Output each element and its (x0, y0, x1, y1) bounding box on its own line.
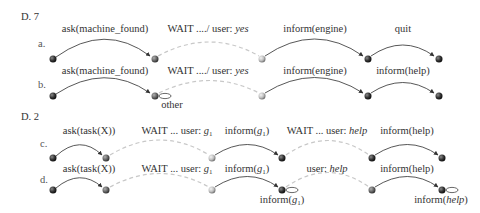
state-node (50, 56, 57, 63)
edge-label: WAIT ... user: help (287, 125, 367, 136)
state-node (365, 56, 372, 63)
edge-label: ask(machine_found) (62, 23, 149, 35)
edge-label: inform(help) (376, 65, 430, 77)
state-node (103, 155, 110, 162)
state-node (50, 155, 57, 162)
state-node (365, 93, 372, 100)
self-loop-label: other (161, 99, 183, 110)
edge-dashed (286, 173, 369, 188)
edge-solid (371, 83, 434, 94)
edge-label: inform(g1) (225, 125, 270, 138)
row-a: a. ask(machine_found) WAIT ..../ user: y… (38, 23, 443, 63)
edge-label: WAIT ..../ user: yes (167, 65, 248, 76)
edge-label: inform(engine) (283, 65, 347, 77)
self-loop (159, 93, 171, 98)
edge-solid (215, 177, 278, 188)
state-node (436, 93, 443, 100)
edge-solid (375, 145, 438, 156)
state-node (279, 155, 286, 162)
edge-label: inform(engine) (283, 23, 347, 35)
section-title-d2: D. 2 (21, 111, 39, 122)
state-node (50, 187, 57, 194)
edge-label: inform(help) (380, 125, 434, 137)
edge-label: inform(g1) (225, 163, 270, 176)
row-label-b: b. (38, 79, 46, 90)
row-d: d. ask(task(X)) WAIT ... user: g1 inform… (40, 163, 468, 207)
edge-solid (215, 145, 278, 156)
state-node (209, 155, 216, 162)
state-node (439, 155, 446, 162)
state-node (103, 187, 110, 194)
edge-label: quit (395, 23, 411, 34)
self-loop (286, 187, 298, 192)
state-node (436, 56, 443, 63)
state-node (50, 93, 57, 100)
row-label-c: c. (40, 138, 47, 149)
edge-label: WAIT ... user: g1 (142, 125, 213, 138)
state-node (152, 93, 159, 100)
section-title-d7: D. 7 (21, 11, 39, 22)
edge-solid (371, 45, 434, 56)
row-label-a: a. (38, 38, 45, 49)
edge-solid (265, 78, 363, 94)
dialogue-diagram: D. 7 a. ask(machine_found) WAIT ..../ us… (0, 0, 480, 213)
edge-dashed (110, 174, 209, 188)
self-loop (446, 187, 458, 192)
edge-label: ask(machine_found) (62, 65, 149, 77)
state-node (279, 187, 286, 194)
edge-solid (56, 178, 102, 188)
edge-solid (56, 145, 102, 156)
edge-dashed (286, 141, 369, 156)
state-node (259, 56, 266, 63)
edge-label: WAIT ..../ user: yes (167, 23, 248, 34)
edge-dashed (158, 42, 259, 56)
edge-solid (265, 39, 363, 56)
edge-label: ask(task(X)) (63, 125, 116, 137)
row-label-d: d. (40, 174, 48, 185)
row-b: b. ask(machine_found) WAIT ..../ user: y… (38, 65, 443, 110)
state-node (209, 187, 216, 194)
self-loop-label: inform(help) (414, 194, 468, 206)
edge-solid (375, 177, 438, 188)
state-node (439, 187, 446, 194)
edge-solid (56, 78, 150, 94)
state-node (369, 155, 376, 162)
state-node (152, 56, 159, 63)
row-c: c. ask(task(X)) WAIT ... user: g1 inform… (40, 125, 446, 162)
state-node (259, 93, 266, 100)
edge-dashed (159, 81, 259, 94)
state-node (369, 187, 376, 194)
edge-dashed (110, 140, 209, 155)
self-loop-label: inform(g1) (260, 194, 305, 207)
edge-label: ask(task(X)) (63, 163, 116, 175)
edge-solid (56, 39, 150, 57)
edge-label: inform(help) (380, 163, 434, 175)
